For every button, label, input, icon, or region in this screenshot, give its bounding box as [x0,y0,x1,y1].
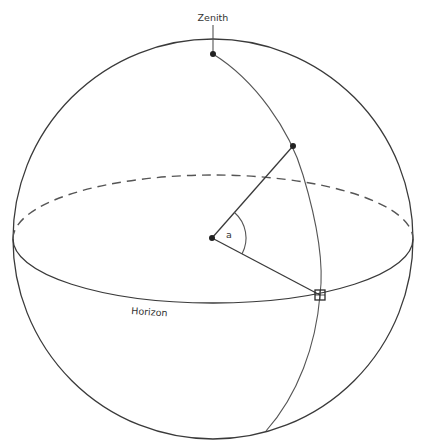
line-center-to-star [212,146,293,238]
horizon-label: Horizon [131,305,168,319]
horizon-back-dashed [13,175,413,239]
horizon-front [13,239,413,303]
angle-label: a [226,229,232,240]
observer-center-point [209,235,215,241]
line-center-to-horizon-point [212,238,320,295]
star-point [290,143,296,149]
zenith-label: Zenith [198,12,229,23]
zenith-point [210,51,216,57]
altitude-angle-arc [235,213,247,255]
celestial-sphere-diagram: Zenith a Horizon [0,0,423,447]
meridian-arc [213,54,321,431]
